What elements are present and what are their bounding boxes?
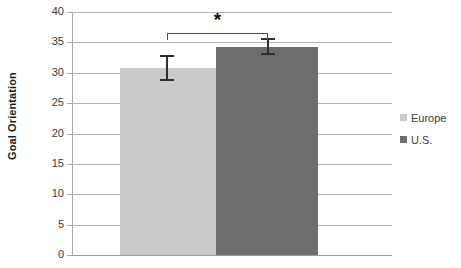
y-tick-label-40: 40 — [24, 6, 64, 17]
y-tick-mark-10 — [67, 194, 72, 195]
error-cap-bottom — [160, 79, 174, 81]
y-axis-title: Goal Orientation — [6, 51, 18, 181]
error-bar-europe — [160, 55, 174, 81]
y-axis-tick-labels: 0510152025303540 — [24, 0, 64, 268]
plot-area: * — [72, 12, 392, 255]
bracket-horizontal-line — [167, 33, 268, 34]
y-tick-mark-5 — [67, 225, 72, 226]
bracket-left-tick — [167, 33, 168, 40]
significance-asterisk: * — [206, 10, 230, 29]
gridline-0 — [72, 255, 392, 256]
legend-label: Europe — [411, 112, 446, 124]
y-tick-label-15: 15 — [24, 158, 64, 169]
bar-us — [216, 47, 318, 255]
bar-chart-figure: Goal Orientation 0510152025303540 * Euro… — [0, 0, 461, 268]
y-tick-mark-0 — [67, 255, 72, 256]
gridline-35 — [72, 42, 392, 43]
y-tick-mark-20 — [67, 134, 72, 135]
y-tick-label-35: 35 — [24, 36, 64, 47]
legend: EuropeU.S. — [400, 108, 460, 152]
y-tick-mark-35 — [67, 42, 72, 43]
legend-swatch-icon — [400, 114, 407, 121]
error-cap-bottom — [261, 53, 275, 55]
bracket-right-tick — [267, 33, 268, 40]
y-tick-label-25: 25 — [24, 97, 64, 108]
legend-item-europe[interactable]: Europe — [400, 108, 460, 130]
gridline-40 — [72, 12, 392, 13]
legend-item-us[interactable]: U.S. — [400, 130, 460, 152]
y-tick-label-30: 30 — [24, 67, 64, 78]
y-tick-label-0: 0 — [24, 249, 64, 260]
error-stem — [166, 55, 168, 81]
bar-europe — [120, 68, 216, 255]
y-tick-mark-30 — [67, 73, 72, 74]
y-tick-mark-15 — [67, 164, 72, 165]
error-bar-us — [261, 38, 275, 55]
y-tick-mark-40 — [67, 12, 72, 13]
y-tick-mark-25 — [67, 103, 72, 104]
legend-swatch-icon — [400, 136, 407, 143]
y-tick-label-5: 5 — [24, 219, 64, 230]
y-tick-label-10: 10 — [24, 188, 64, 199]
legend-label: U.S. — [411, 134, 432, 146]
y-tick-label-20: 20 — [24, 128, 64, 139]
